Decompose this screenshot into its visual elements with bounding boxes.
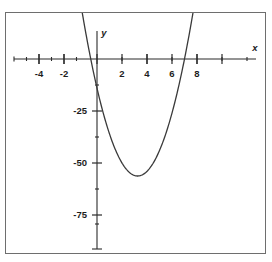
x-axis-label: x xyxy=(251,42,258,53)
y-tick-label-neg75: -75 xyxy=(73,209,87,220)
x-tick-label-4: 4 xyxy=(144,68,150,79)
x-tick-label-neg4: -4 xyxy=(35,68,44,79)
x-tick-label-neg2: -2 xyxy=(60,68,68,79)
parabola-plot: -4 -2 2 4 6 8 -25 -50 -75 x y xyxy=(6,13,265,253)
x-tick-label-2: 2 xyxy=(119,68,124,79)
plot-frame: -4 -2 2 4 6 8 -25 -50 -75 x y xyxy=(5,12,266,254)
x-tick-label-8: 8 xyxy=(194,68,199,79)
x-tick-label-6: 6 xyxy=(169,68,174,79)
parabola-curve xyxy=(82,13,194,176)
y-tick-label-neg50: -50 xyxy=(73,157,87,168)
y-tick-label-neg25: -25 xyxy=(73,105,87,116)
y-axis-label: y xyxy=(100,27,107,38)
chart-page: -4 -2 2 4 6 8 -25 -50 -75 x y xyxy=(0,0,272,262)
